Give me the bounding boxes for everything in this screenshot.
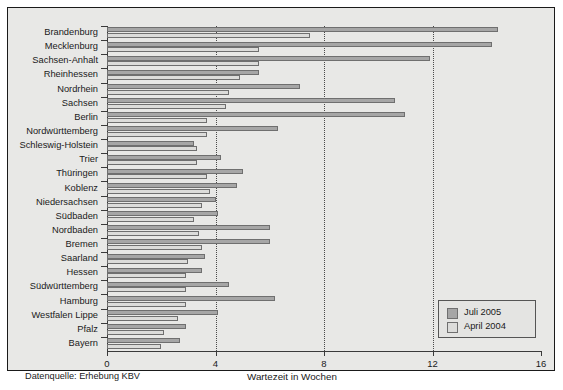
- bar-juli-2005: [107, 296, 275, 301]
- y-axis-tick-label: Schleswig-Holstein: [8, 140, 98, 150]
- bar-juli-2005: [107, 27, 498, 32]
- bar-april-2004: [107, 132, 207, 137]
- bar-april-2004: [107, 33, 310, 38]
- y-axis-tick-label: Sachsen-Anhalt: [8, 55, 98, 65]
- y-axis-tick-label: Mecklenburg: [8, 41, 98, 51]
- y-axis-tick-label: Südwürttemberg: [8, 281, 98, 291]
- bar-april-2004: [107, 104, 226, 109]
- y-axis-tick-label: Niedersachsen: [8, 197, 98, 207]
- bar-april-2004: [107, 316, 178, 321]
- bar-april-2004: [107, 146, 197, 151]
- y-axis-tick-label: Berlin: [8, 112, 98, 122]
- y-axis-tick-label: Brandenburg: [8, 27, 98, 37]
- bar-april-2004: [107, 217, 194, 222]
- bar-april-2004: [107, 174, 207, 179]
- bar-juli-2005: [107, 225, 270, 230]
- chart-figure: BrandenburgMecklenburgSachsen-AnhaltRhei…: [0, 0, 563, 390]
- x-axis-tick: [324, 351, 325, 356]
- y-axis-tick: [101, 294, 107, 295]
- grid-line: [324, 26, 325, 351]
- bar-juli-2005: [107, 282, 229, 287]
- y-axis-tick-label: Rheinhessen: [8, 69, 98, 79]
- x-axis-tick: [216, 351, 217, 356]
- y-axis-tick-label: Saarland: [8, 253, 98, 263]
- y-axis-tick-label: Hamburg: [8, 296, 98, 306]
- x-axis-tick: [433, 351, 434, 356]
- bar-juli-2005: [107, 268, 202, 273]
- bar-april-2004: [107, 203, 202, 208]
- y-axis-tick-label: Bayern: [8, 338, 98, 348]
- x-axis-title: Wartezeit in Wochen: [247, 371, 337, 382]
- x-axis-tick-label: 8: [309, 358, 339, 369]
- bar-april-2004: [107, 189, 210, 194]
- x-axis-tick-label: 12: [418, 358, 448, 369]
- bar-juli-2005: [107, 56, 430, 61]
- x-axis-tick-label: 16: [526, 358, 556, 369]
- bar-april-2004: [107, 47, 259, 52]
- y-axis-tick-label: Hessen: [8, 267, 98, 277]
- x-axis-tick: [541, 351, 542, 356]
- bar-april-2004: [107, 302, 186, 307]
- grid-line: [433, 26, 434, 351]
- bar-juli-2005: [107, 126, 278, 131]
- bar-april-2004: [107, 287, 186, 292]
- y-axis-tick-label: Sachsen: [8, 98, 98, 108]
- bar-juli-2005: [107, 254, 205, 259]
- bar-april-2004: [107, 61, 259, 66]
- bar-april-2004: [107, 160, 197, 165]
- bar-april-2004: [107, 231, 199, 236]
- y-axis-tick-label: Thüringen: [8, 168, 98, 178]
- bar-juli-2005: [107, 183, 237, 188]
- legend-swatch-icon: [447, 322, 458, 333]
- bar-juli-2005: [107, 239, 270, 244]
- bar-april-2004: [107, 245, 202, 250]
- y-axis-tick-label: Koblenz: [8, 183, 98, 193]
- y-axis-tick-label: Nordwürttemberg: [8, 126, 98, 136]
- legend-label: Juli 2005: [464, 307, 501, 317]
- chart-legend: Juli 2005April 2004: [438, 300, 536, 338]
- bar-april-2004: [107, 259, 188, 264]
- x-axis-tick-label: 4: [201, 358, 231, 369]
- chart-panel: BrandenburgMecklenburgSachsen-AnhaltRhei…: [7, 7, 555, 371]
- bar-juli-2005: [107, 211, 218, 216]
- y-axis-tick-label: Bremen: [8, 239, 98, 249]
- bar-juli-2005: [107, 42, 492, 47]
- y-axis-tick-label: Trier: [8, 154, 98, 164]
- y-axis-tick-label: Westfalen Lippe: [8, 310, 98, 320]
- bar-april-2004: [107, 75, 240, 80]
- y-axis-tick-label: Südbaden: [8, 211, 98, 221]
- bar-juli-2005: [107, 155, 221, 160]
- y-axis-tick-label: Pfalz: [8, 324, 98, 334]
- y-axis-tick: [101, 181, 107, 182]
- bar-juli-2005: [107, 197, 216, 202]
- y-axis-tick: [101, 68, 107, 69]
- y-axis-tick-label: Nordrhein: [8, 84, 98, 94]
- bar-juli-2005: [107, 84, 300, 89]
- bar-april-2004: [107, 330, 164, 335]
- legend-label: April 2004: [464, 321, 506, 331]
- bar-juli-2005: [107, 338, 180, 343]
- bar-juli-2005: [107, 141, 194, 146]
- bar-juli-2005: [107, 98, 395, 103]
- source-note: Datenquelle: Erhebung KBV: [25, 371, 140, 381]
- x-axis-tick-label: 0: [92, 358, 122, 369]
- bar-juli-2005: [107, 324, 186, 329]
- bar-juli-2005: [107, 169, 243, 174]
- bar-juli-2005: [107, 310, 218, 315]
- x-axis-tick: [107, 351, 108, 356]
- bar-april-2004: [107, 273, 186, 278]
- bar-juli-2005: [107, 112, 405, 117]
- legend-swatch-icon: [447, 308, 458, 319]
- bar-april-2004: [107, 118, 207, 123]
- bar-april-2004: [107, 90, 229, 95]
- bar-juli-2005: [107, 70, 259, 75]
- bar-april-2004: [107, 344, 161, 349]
- y-axis-tick-label: Nordbaden: [8, 225, 98, 235]
